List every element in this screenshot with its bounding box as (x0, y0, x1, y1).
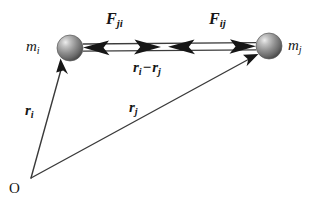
mass-i-symbol: m (26, 38, 37, 54)
force-label-on-i-subscript: ji (117, 17, 123, 29)
origin-label: O (9, 181, 20, 196)
force-label-on-j: Fij (209, 11, 226, 29)
diagram-canvas (0, 0, 323, 204)
minus-sign: − (142, 59, 153, 75)
mass-j-label: mj (288, 38, 302, 55)
force-label-on-j-subscript: ij (220, 17, 226, 29)
physics-diagram: Fji Fij ri−rj mi mj ri rj O (0, 0, 323, 204)
position-vector-i-subscript: i (31, 109, 34, 120)
separation-second-subscript: j (158, 66, 161, 77)
mass-i-sphere (57, 35, 83, 61)
position-vector-j-label: rj (129, 100, 138, 117)
mass-j-subscript: j (299, 44, 302, 55)
position-vector-j-subscript: j (135, 106, 138, 117)
mass-j-symbol: m (288, 37, 299, 53)
mass-i-label: mi (26, 39, 40, 56)
mass-i-subscript: i (37, 45, 40, 56)
separation-vector-label: ri−rj (133, 60, 161, 77)
mass-j-sphere (256, 33, 282, 59)
force-label-on-i-symbol: F (106, 10, 117, 27)
force-label-on-i: Fji (106, 11, 123, 29)
force-label-on-j-symbol: F (209, 10, 220, 27)
position-vector-i-label: ri (25, 103, 34, 120)
